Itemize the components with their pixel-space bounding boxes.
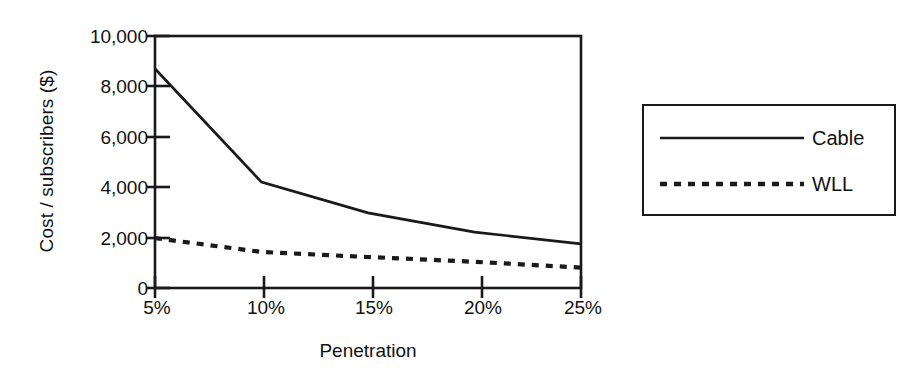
legend-item-cable: Cable bbox=[644, 123, 894, 153]
chart-legend: Cable WLL bbox=[642, 104, 896, 216]
legend-label-wll: WLL bbox=[812, 174, 853, 194]
series-line-cable bbox=[155, 69, 581, 244]
legend-swatch-dotted-line-icon bbox=[658, 174, 806, 194]
legend-item-wll: WLL bbox=[644, 169, 894, 199]
axes-frame bbox=[155, 36, 581, 288]
legend-label-cable: Cable bbox=[812, 128, 864, 148]
chart-figure: Cost / subscribers ($) 10,000 8,000 6,00… bbox=[0, 0, 918, 381]
legend-swatch-solid-line-icon bbox=[658, 128, 806, 148]
series-line-wll bbox=[155, 238, 581, 267]
